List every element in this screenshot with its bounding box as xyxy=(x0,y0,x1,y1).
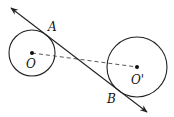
label-o-prime: O' xyxy=(131,73,144,87)
center-segment-dashed xyxy=(32,53,137,67)
tangent-circles-diagram: A B O O' xyxy=(0,0,174,117)
label-a: A xyxy=(47,20,57,34)
label-b: B xyxy=(106,92,116,106)
center-point-o-prime xyxy=(135,65,139,69)
label-o: O xyxy=(26,57,36,71)
center-point-o xyxy=(30,51,34,55)
